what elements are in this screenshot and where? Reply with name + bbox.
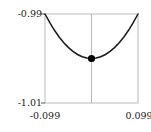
x-axis-left-tick-label: -0.099	[18, 111, 72, 121]
y-axis-bottom-tick-label: -1.01	[0, 98, 42, 108]
x-axis-right-tick-label: 0.099	[112, 111, 151, 121]
y-axis-top-tick-label: -0.99	[0, 9, 42, 19]
minimum-point-marker	[88, 55, 95, 62]
chart-figure: -0.99 -1.01 -0.099 0.099	[0, 0, 151, 132]
